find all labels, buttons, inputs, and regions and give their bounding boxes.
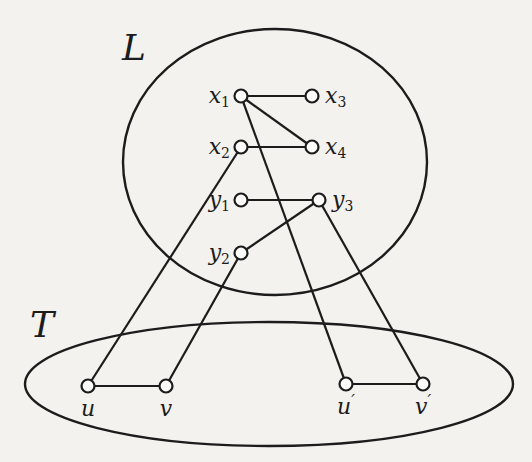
node-x4 [306, 141, 319, 154]
node-x2 [235, 141, 248, 154]
node-label-x1: x1 [209, 83, 230, 110]
node-label-v-prime: v′ [415, 391, 431, 419]
node-x3 [306, 90, 319, 103]
region-L-label: L [121, 27, 146, 68]
edge-y2-v [166, 253, 241, 386]
graph-diagram: L T x1x2x3x4y1y2y3uvu′v′ [0, 0, 532, 462]
node-label-x4: x4 [325, 134, 346, 161]
edge-x1-x4 [241, 96, 312, 147]
node-label-x2: x2 [209, 134, 230, 161]
node-y1 [235, 194, 248, 207]
node-y2 [235, 247, 248, 260]
node-label-y2: y2 [208, 240, 230, 267]
node-label-y3: y3 [331, 187, 353, 214]
edge-x2-u [88, 147, 241, 386]
node-label-u: u [81, 396, 95, 421]
node-u [82, 380, 95, 393]
region-T-label: T [30, 304, 57, 345]
node-u-prime [340, 378, 353, 391]
edges [88, 96, 423, 386]
node-label-y1: y1 [208, 187, 230, 214]
node-label-v: v [160, 396, 173, 421]
node-labels: x1x2x3x4y1y2y3uvu′v′ [81, 83, 431, 421]
regions: L T [25, 27, 513, 446]
node-v-prime [417, 378, 430, 391]
node-x1 [235, 90, 248, 103]
region-T-ellipse [25, 322, 513, 446]
node-y3 [313, 194, 326, 207]
region-L-circle [123, 29, 427, 295]
node-label-u-prime: u′ [337, 391, 355, 419]
node-v [160, 380, 173, 393]
edge-y2-y3 [241, 200, 319, 253]
node-label-x3: x3 [325, 83, 346, 110]
